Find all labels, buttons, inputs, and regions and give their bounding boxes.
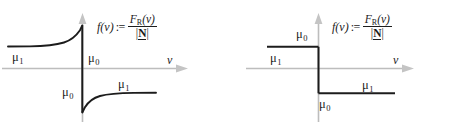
negative-branch-curve bbox=[8, 26, 82, 47]
formula-expression: f(v):= FR(v) |N| bbox=[332, 14, 392, 40]
mu-1-lower-right-label: μ1 bbox=[118, 78, 129, 91]
vertical-axis-arrowhead bbox=[315, 13, 323, 24]
mu-0-upper-right-label: μ0 bbox=[296, 28, 307, 41]
formula-denominator-right-bar: | bbox=[146, 27, 148, 39]
formula-numerator-argument: (v) bbox=[142, 13, 155, 25]
stribeck-curve-panel: f(v):= FR(v) |N| v μ1 μ0 μ0 μ1 bbox=[0, 0, 230, 128]
formula-denominator-right-bar: | bbox=[381, 27, 383, 39]
mu-0-lower-left-label: μ0 bbox=[62, 86, 73, 99]
formula-denominator: |N| bbox=[134, 27, 151, 40]
mu-subscript: 1 bbox=[19, 56, 23, 66]
formula-numerator-subscript: R bbox=[372, 18, 377, 27]
formula-lhs: f(v) bbox=[332, 21, 349, 33]
mu-0-upper-right-label: μ0 bbox=[88, 52, 99, 65]
positive-branch-curve bbox=[82, 93, 156, 113]
formula-numerator-symbol: F bbox=[130, 13, 137, 25]
formula-denominator: |N| bbox=[369, 27, 386, 40]
mu-symbol: μ bbox=[88, 51, 95, 65]
mu-1-upper-left-label: μ1 bbox=[12, 51, 23, 64]
formula-numerator: FR(v) bbox=[128, 14, 157, 27]
mu-symbol: μ bbox=[296, 27, 303, 41]
mu-subscript: 1 bbox=[277, 57, 281, 67]
mu-symbol: μ bbox=[62, 85, 69, 99]
formula-fraction: FR(v) |N| bbox=[128, 14, 157, 40]
coulomb-step-panel: f(v):= FR(v) |N| v μ1 μ0 μ0 μ1 bbox=[230, 0, 460, 128]
mu-subscript: 0 bbox=[326, 103, 330, 113]
mu-symbol: μ bbox=[118, 77, 125, 91]
x-axis-label: v bbox=[167, 54, 172, 66]
formula-defeq: := bbox=[351, 21, 360, 33]
vertical-axis-arrowhead bbox=[79, 13, 87, 24]
mu-symbol: μ bbox=[12, 50, 19, 64]
mu-symbol: μ bbox=[319, 97, 326, 111]
mu-0-lower-left-label: μ0 bbox=[319, 98, 330, 111]
x-axis-label: v bbox=[393, 54, 398, 66]
formula-numerator-subscript: R bbox=[137, 18, 142, 27]
mu-subscript: 1 bbox=[369, 84, 373, 94]
mu-1-lower-right-label: μ1 bbox=[362, 79, 373, 92]
mu-subscript: 0 bbox=[69, 91, 73, 101]
horizontal-axis-arrowhead bbox=[402, 65, 414, 73]
mu-1-upper-left-label: μ1 bbox=[270, 52, 281, 65]
friction-curves-figure: f(v):= FR(v) |N| v μ1 μ0 μ0 μ1 bbox=[0, 0, 460, 128]
mu-subscript: 0 bbox=[95, 57, 99, 67]
mu-subscript: 1 bbox=[125, 83, 129, 93]
formula-numerator-argument: (v) bbox=[377, 13, 390, 25]
horizontal-axis-arrowhead bbox=[176, 65, 188, 73]
formula-defeq: := bbox=[116, 21, 125, 33]
formula-numerator-symbol: F bbox=[365, 13, 372, 25]
formula-fraction: FR(v) |N| bbox=[363, 14, 392, 40]
formula-lhs: f(v) bbox=[97, 21, 114, 33]
formula-numerator: FR(v) bbox=[363, 14, 392, 27]
mu-symbol: μ bbox=[270, 51, 277, 65]
mu-subscript: 0 bbox=[303, 33, 307, 43]
mu-symbol: μ bbox=[362, 78, 369, 92]
formula-expression: f(v):= FR(v) |N| bbox=[97, 14, 157, 40]
